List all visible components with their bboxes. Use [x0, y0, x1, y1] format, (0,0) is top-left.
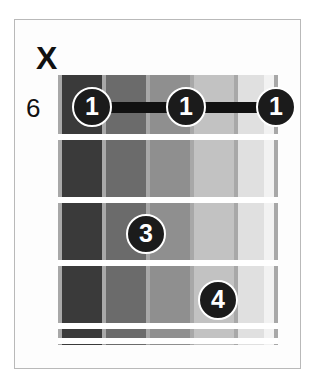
fret-line-5: [58, 338, 278, 344]
fretboard: 11134: [58, 75, 278, 345]
fret-line-4: [58, 323, 278, 329]
fret-line-1: [58, 134, 278, 140]
string-6: [58, 75, 62, 345]
starting-fret-number: 6: [26, 95, 40, 121]
finger-marker-1b: 1: [166, 87, 206, 127]
finger-marker-1c: 1: [256, 87, 296, 127]
fret-line-2: [58, 197, 278, 203]
mute-string-marker-x: X: [36, 42, 57, 74]
fret-line-3: [58, 260, 278, 266]
chord-diagram-card: X 6 11134: [0, 0, 320, 384]
finger-marker-4: 4: [198, 280, 238, 320]
finger-marker-1a: 1: [72, 87, 112, 127]
finger-marker-3: 3: [126, 214, 166, 254]
string-4: [146, 75, 150, 345]
